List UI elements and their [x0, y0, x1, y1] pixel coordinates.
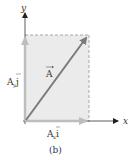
svg-text:j: j [15, 77, 19, 87]
figure-caption: (b) [49, 145, 62, 155]
y-axis-label: y [20, 3, 27, 13]
y-component-label: A y j [6, 74, 21, 89]
vector-diagram: y x A A y j A x i (b) [0, 0, 139, 160]
svg-text:i: i [56, 129, 59, 139]
x-axis-label: x [123, 116, 128, 126]
svg-text:A: A [45, 69, 53, 79]
x-component-label: A x i [46, 127, 60, 140]
